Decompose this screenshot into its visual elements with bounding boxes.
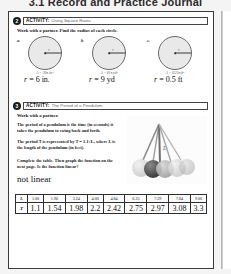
- pendulum-illustration-icon: L: [127, 116, 207, 184]
- handwritten-answer: not linear: [17, 174, 51, 184]
- table-header-cell-1: 1.00: [28, 195, 44, 203]
- table-row-values: T 1.1 1.54 1.98 2.2 2.42 2.75 2.97 3.08 …: [16, 203, 207, 214]
- circle-radius-line-a: [45, 53, 61, 54]
- activity-3-line4: Complete the table. Then graph the funct…: [17, 158, 119, 169]
- circle-radius-label-a: r: [48, 48, 49, 52]
- table-value-cell-5: 2.42: [103, 203, 125, 214]
- table-key-L: L: [16, 195, 28, 203]
- table-header-cell-7: 7.29: [147, 195, 169, 203]
- table-header-cell-2: 1.96: [44, 195, 66, 203]
- activity-2-word: ACTIVITY:: [26, 18, 49, 23]
- circle-shape-c: r: [158, 36, 192, 70]
- circle-label-a: a.: [17, 38, 20, 43]
- activity-3-title: The Period of a Pendulum: [51, 103, 102, 108]
- table-header-cell-6: 6.25: [125, 195, 147, 203]
- activity-3-line3: The period T is represented by T = 1.1√L…: [17, 139, 119, 150]
- table-header-cell-5: 4.84: [103, 195, 125, 203]
- circle-answer-b: r = 9 yd: [89, 75, 115, 84]
- activity-2-instruction: Work with a partner. Find the radius of …: [17, 28, 118, 33]
- table-value-cell-8: 3.08: [169, 203, 191, 214]
- pendulum-data-table: L 1.00 1.96 3.24 4.00 4.84 6.25 7.29 7.8…: [15, 194, 207, 214]
- activity-3-word: ACTIVITY:: [26, 103, 49, 108]
- table-header-cell-3: 3.24: [65, 195, 87, 203]
- circle-item-c: c. r A = 0.25π ft²: [147, 36, 203, 75]
- circle-radius-line-c: [175, 53, 191, 54]
- table-row-header: L 1.00 1.96 3.24 4.00 4.84 6.25 7.29 7.8…: [16, 195, 207, 203]
- circle-item-a: a. r A = 36π in.²: [17, 36, 73, 75]
- activity-2-number: 2: [13, 17, 21, 25]
- circle-label-c: c.: [147, 38, 150, 43]
- circle-answer-a-value: = 6 in.: [27, 75, 50, 84]
- activity-3-line1: Work with a partner.: [17, 113, 58, 118]
- table-value-cell-1: 1.1: [28, 203, 44, 214]
- table-key-T: T: [16, 203, 28, 214]
- circle-answer-a: r = 6 in.: [24, 75, 50, 84]
- table-value-cell-4: 2.2: [87, 203, 103, 214]
- activity-3-header: 3 ACTIVITY: The Period of a Pendulum: [13, 101, 208, 110]
- table-header-cell-4: 4.00: [87, 195, 103, 203]
- circle-shape-a: r: [28, 36, 62, 70]
- activity-3-line2: The period of a pendulum is the time (in…: [17, 122, 119, 133]
- circle-radius-line-b: [109, 53, 125, 54]
- table-value-cell-6: 2.75: [125, 203, 147, 214]
- circle-answer-b-value: = 9 yd: [92, 75, 115, 84]
- svg-text:L: L: [162, 145, 167, 151]
- page-running-head: 3.1 Record and Practice Journal: [0, 0, 231, 10]
- circle-radius-label-b: r: [112, 48, 113, 52]
- circle-radius-label-c: r: [178, 48, 179, 52]
- circle-label-b: b.: [81, 38, 84, 43]
- worksheet-sheet: 2 ACTIVITY: Using Square Roots Work with…: [8, 11, 214, 269]
- table-value-cell-9: 3.3: [190, 203, 206, 214]
- journal-page: 3.1 Record and Practice Journal 2 ACTIVI…: [0, 0, 231, 274]
- newtons-cradle-pendulum-photo: L: [127, 116, 207, 184]
- activity-3-titlebox: ACTIVITY: The Period of a Pendulum: [23, 102, 208, 110]
- circle-answer-c: r = 0.5 ft: [154, 75, 183, 84]
- activity-2-header: 2 ACTIVITY: Using Square Roots: [13, 16, 208, 25]
- activity-2-titlebox: ACTIVITY: Using Square Roots: [23, 17, 208, 25]
- activity-3-number: 3: [13, 102, 21, 110]
- circle-shape-b: r: [92, 36, 126, 70]
- table-header-cell-9: 9.00: [190, 195, 206, 203]
- table-value-cell-2: 1.54: [44, 203, 66, 214]
- activity-2-title: Using Square Roots: [51, 18, 90, 23]
- table-value-cell-7: 2.97: [147, 203, 169, 214]
- circle-item-b: b. r A = 81π yd²: [81, 36, 137, 75]
- table-header-cell-8: 7.84: [169, 195, 191, 203]
- table-value-cell-3: 1.98: [65, 203, 87, 214]
- page-gutter-edge: [221, 11, 222, 269]
- page-gutter: [222, 11, 231, 269]
- circle-answer-c-value: = 0.5 ft: [157, 75, 182, 84]
